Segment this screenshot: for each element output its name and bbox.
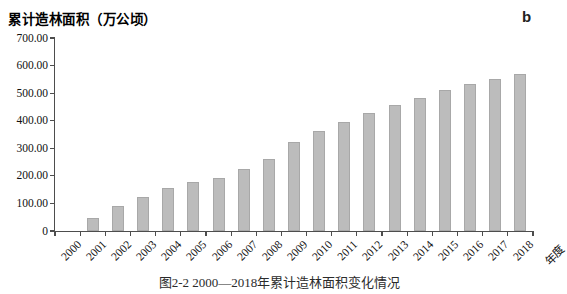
bar-2009: [288, 142, 300, 231]
y-tick-mark: [50, 203, 55, 204]
y-tick-label: 100.00: [2, 198, 48, 209]
x-tick-mark: [457, 231, 458, 236]
x-tick-mark: [407, 231, 408, 236]
y-tick-label: 500.00: [2, 88, 48, 99]
bar-2001: [87, 218, 99, 231]
x-tick-mark: [105, 231, 106, 236]
bar-2015: [439, 90, 451, 231]
x-tick-mark: [482, 231, 483, 236]
x-tick-mark: [381, 231, 382, 236]
x-tick-mark: [281, 231, 282, 236]
x-tick-mark: [231, 231, 232, 236]
y-tick-mark: [50, 120, 55, 121]
x-tick-mark: [54, 231, 55, 236]
y-tick-label: 600.00: [2, 60, 48, 71]
bar-2014: [414, 98, 426, 231]
bar-2005: [187, 182, 199, 231]
x-tick-mark: [155, 231, 156, 236]
figure-caption-clipped: 图2-2 2000—2018年累计造林面积变化情况: [0, 276, 559, 290]
bar-2012: [363, 113, 375, 231]
y-tick-label: 0: [2, 226, 48, 237]
bar-2003: [137, 197, 149, 231]
bar-2002: [112, 206, 124, 231]
y-tick-label: 200.00: [2, 170, 48, 181]
bar-2017: [489, 79, 501, 231]
y-tick-label: 300.00: [2, 143, 48, 154]
y-tick-mark: [50, 37, 55, 38]
y-tick-label: 400.00: [2, 115, 48, 126]
x-tick-mark: [331, 231, 332, 236]
bar-2007: [238, 169, 250, 231]
bar-2018: [514, 74, 526, 231]
bar-2008: [263, 159, 275, 231]
x-tick-mark: [356, 231, 357, 236]
y-tick-mark: [50, 148, 55, 149]
x-tick-mark: [256, 231, 257, 236]
x-tick-mark: [205, 231, 206, 236]
bar-2016: [464, 84, 476, 231]
x-tick-mark: [180, 231, 181, 236]
y-tick-mark: [50, 175, 55, 176]
x-tick-mark: [80, 231, 81, 236]
y-axis-title: 累计造林面积（万公顷）: [8, 8, 157, 28]
x-tick-mark: [130, 231, 131, 236]
x-tick-mark: [507, 231, 508, 236]
bar-2011: [338, 122, 350, 231]
x-tick-mark: [432, 231, 433, 236]
y-tick-mark: [50, 65, 55, 66]
bar-2004: [162, 188, 174, 231]
bar-2010: [313, 131, 325, 231]
x-tick-mark: [306, 231, 307, 236]
panel-label-b: b: [522, 8, 531, 25]
y-tick-label: 700.00: [2, 33, 48, 44]
bar-2006: [213, 178, 225, 231]
bar-2013: [389, 105, 401, 231]
y-tick-mark: [50, 93, 55, 94]
x-tick-mark: [532, 231, 533, 236]
